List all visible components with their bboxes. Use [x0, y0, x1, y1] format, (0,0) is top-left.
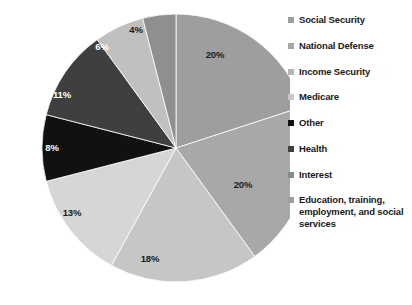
pie-slice-value-label: 4%	[129, 24, 143, 35]
legend-swatch-icon	[288, 146, 294, 152]
legend-swatch-icon	[288, 69, 294, 75]
pie-slice-group	[42, 14, 290, 282]
pie-slice-value-label: 13%	[63, 207, 82, 218]
legend-item-label: Other	[299, 117, 324, 129]
legend-item-label: Health	[299, 143, 327, 155]
legend-item-label: National Defense	[299, 40, 374, 52]
legend-swatch-icon	[288, 94, 294, 100]
legend-item[interactable]: National Defense	[288, 40, 412, 52]
legend-item[interactable]: Education, training, employment, and soc…	[288, 194, 412, 229]
legend-item[interactable]: Income Security	[288, 66, 412, 78]
legend-swatch-icon	[288, 172, 294, 178]
pie-chart-svg: 20%20%18%13%8%11%6%4%	[0, 0, 290, 305]
legend-item-label: Interest	[299, 169, 332, 181]
legend-item[interactable]: Other	[288, 117, 412, 129]
pie-slice-value-label: 20%	[206, 49, 225, 60]
legend-swatch-icon	[288, 43, 294, 49]
pie-slice-value-label: 18%	[141, 253, 160, 264]
legend-swatch-icon	[288, 120, 294, 126]
pie-slice-value-label: 20%	[234, 179, 253, 190]
pie-slice-value-label: 8%	[45, 142, 59, 153]
pie-chart-figure: 20%20%18%13%8%11%6%4% Social SecurityNat…	[0, 0, 412, 305]
pie-slice-value-label: 6%	[95, 41, 109, 52]
legend-item-label: Medicare	[299, 91, 339, 103]
legend-item[interactable]: Medicare	[288, 91, 412, 103]
chart-legend: Social SecurityNational DefenseIncome Se…	[288, 14, 412, 292]
legend-item-label: Education, training, employment, and soc…	[299, 194, 412, 229]
legend-item[interactable]: Interest	[288, 169, 412, 181]
legend-item-label: Income Security	[299, 66, 370, 78]
legend-swatch-icon	[288, 197, 294, 203]
legend-item[interactable]: Social Security	[288, 14, 412, 26]
pie-slice-value-label: 11%	[53, 89, 72, 100]
legend-swatch-icon	[288, 17, 294, 23]
pie-chart-plot-area: 20%20%18%13%8%11%6%4%	[0, 0, 290, 305]
legend-item[interactable]: Health	[288, 143, 412, 155]
legend-item-label: Social Security	[299, 14, 365, 26]
